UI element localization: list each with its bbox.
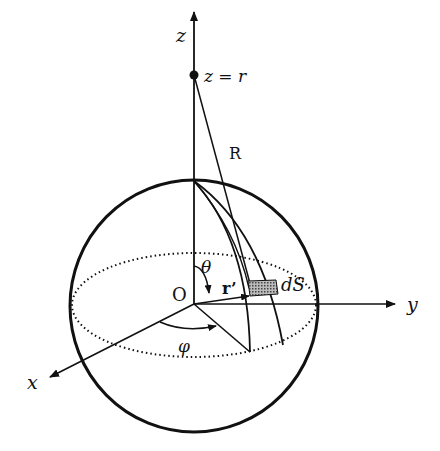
surface-element-label: dS xyxy=(281,274,305,295)
phi-arc xyxy=(160,322,216,329)
x-axis-label: x xyxy=(27,371,38,393)
phi-label: φ xyxy=(178,336,190,356)
origin-label: O xyxy=(172,284,187,305)
point-label: z = r xyxy=(203,66,247,86)
sphere-diagram: z z = r R θ O r’ dS φ y x xyxy=(0,0,440,451)
surface-element-patch xyxy=(248,280,278,296)
position-vector-label: r’ xyxy=(222,279,237,298)
y-axis-label: y xyxy=(406,293,418,315)
z-axis-label: z xyxy=(175,24,187,46)
theta-label: θ xyxy=(201,257,211,277)
distance-label: R xyxy=(229,144,242,163)
